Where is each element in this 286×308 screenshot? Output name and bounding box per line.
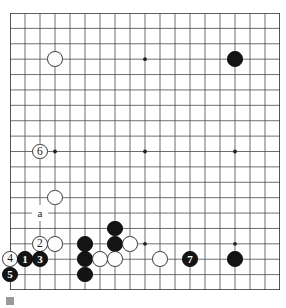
go-stone-white[interactable] <box>122 236 138 252</box>
go-stone-black[interactable] <box>107 221 123 237</box>
stone-move-number: 6 <box>37 145 43 157</box>
stone-move-number: 1 <box>22 253 28 264</box>
stone-move-number: 4 <box>7 253 13 265</box>
go-stone-black[interactable] <box>77 251 93 267</box>
go-stone-white[interactable] <box>47 236 63 252</box>
go-diagram-figure: 6241375 a <box>0 0 286 308</box>
go-stone-white[interactable] <box>107 251 123 267</box>
go-stone-white-move-4[interactable]: 4 <box>2 251 18 267</box>
go-stone-white[interactable] <box>47 190 63 206</box>
go-stone-white-move-2[interactable]: 2 <box>32 236 48 252</box>
go-board[interactable]: 6241375 a <box>10 13 280 290</box>
go-stone-white[interactable] <box>92 251 108 267</box>
go-stone-black[interactable] <box>227 251 243 267</box>
go-stone-black-move-1[interactable]: 1 <box>17 251 33 267</box>
stone-move-number: 2 <box>37 238 43 250</box>
go-stone-white-move-6[interactable]: 6 <box>32 144 48 160</box>
go-stone-black[interactable] <box>77 236 93 252</box>
board-point-label-a[interactable]: a <box>32 205 48 221</box>
stone-move-number: 3 <box>37 253 43 264</box>
go-stone-black[interactable] <box>77 267 93 283</box>
go-stone-black-move-3[interactable]: 3 <box>32 251 48 267</box>
go-stone-black[interactable] <box>107 236 123 252</box>
go-stone-black-move-5[interactable]: 5 <box>2 267 18 283</box>
stone-move-number: 5 <box>7 269 13 280</box>
stone-move-number: 7 <box>187 253 193 264</box>
go-stone-black-move-7[interactable]: 7 <box>182 251 198 267</box>
caption-mark-icon <box>6 297 14 305</box>
go-stone-black[interactable] <box>227 51 243 67</box>
go-stone-white[interactable] <box>47 51 63 67</box>
go-stone-white[interactable] <box>152 251 168 267</box>
figure-caption <box>6 295 36 306</box>
